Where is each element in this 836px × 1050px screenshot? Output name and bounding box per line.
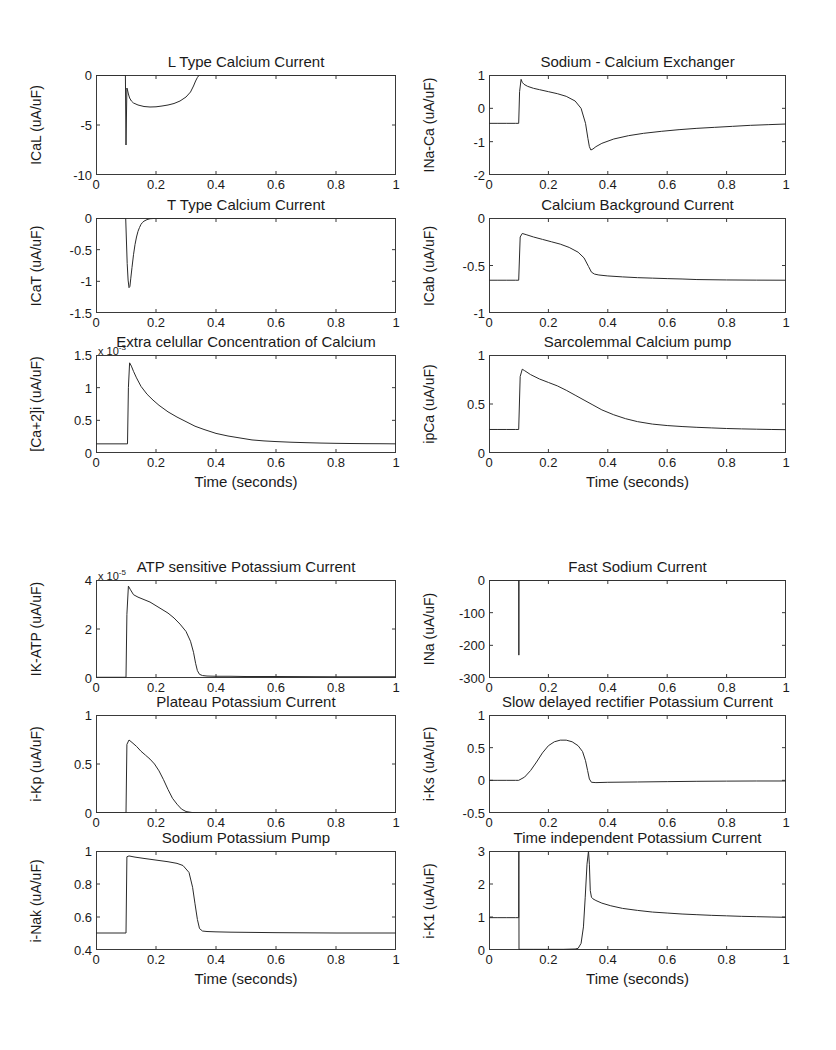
xtick-ik1-2: 0.4 (588, 953, 628, 966)
plot-panel-ik1: Time independent Potassium Current321000… (0, 0, 836, 1050)
tick-marks-ik1 (489, 851, 786, 950)
xtick-ik1-4: 0.8 (707, 953, 747, 966)
xtick-ik1-5: 1 (766, 953, 806, 966)
ytick-ik1-0: 3 (443, 845, 485, 858)
xtick-ik1-0: 0 (469, 953, 509, 966)
data-series-ik1 (489, 851, 786, 949)
ytick-ik1-2: 1 (443, 911, 485, 924)
xtick-ik1-1: 0.2 (528, 953, 568, 966)
plot-title-ik1: Time independent Potassium Current (429, 829, 836, 846)
plot-canvas-ik1 (489, 851, 786, 950)
figure-cardiac-ion-currents: L Type Calcium Current0-5-1000.20.40.60.… (0, 0, 836, 1050)
xtick-ik1-3: 0.6 (647, 953, 687, 966)
xlabel-ik1: Time (seconds) (489, 970, 786, 987)
ylabel-ik1: i-K1 (uA/uF) (421, 863, 437, 938)
ytick-ik1-1: 2 (443, 878, 485, 891)
